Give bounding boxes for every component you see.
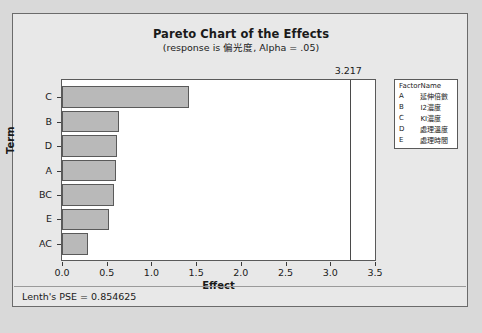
x-tick-label-4: 2.0 (226, 267, 256, 278)
legend-name: KI濃度 (420, 113, 454, 124)
y-tick-label-d: D (45, 140, 52, 151)
y-tick-label-ac: AC (39, 238, 52, 249)
y-tick-label-e: E (46, 213, 52, 224)
bar-c (62, 86, 189, 107)
bar-bc (62, 184, 114, 205)
legend-header-row: Factor Name (399, 82, 454, 91)
x-tick-1 (107, 262, 108, 266)
x-tick-7 (375, 262, 376, 266)
x-tick-6 (330, 262, 331, 266)
legend-factor: D (399, 123, 420, 134)
bar-d (62, 135, 117, 156)
bar-e (62, 209, 109, 230)
lenth-pse-note: Lenth's PSE = 0.854625 (22, 291, 136, 302)
y-tick-bc (57, 195, 61, 196)
footer-divider (14, 286, 466, 287)
legend-name: 延伸倍數 (420, 91, 454, 102)
legend-factor: C (399, 113, 420, 124)
y-tick-a (57, 171, 61, 172)
x-tick-0 (62, 262, 63, 266)
legend-name: I2濃度 (420, 102, 454, 113)
chart-subtitle: (response is 偏光度, Alpha = .05) (13, 42, 469, 54)
y-tick-e (57, 219, 61, 220)
x-tick-label-7: 3.5 (360, 267, 390, 278)
x-tick-label-0: 0.0 (47, 267, 77, 278)
plot-area (61, 79, 376, 261)
x-tick-label-5: 2.5 (271, 267, 301, 278)
legend-row: D處理溫度 (399, 123, 454, 134)
legend-table: Factor Name A延伸倍數BI2濃度CKI濃度D處理溫度E處理時間 (399, 82, 454, 145)
reference-line-label: 3.217 (335, 65, 362, 76)
x-tick-label-2: 1.0 (136, 267, 166, 278)
legend-factor: B (399, 102, 420, 113)
x-tick-3 (196, 262, 197, 266)
legend-factor: E (399, 134, 420, 145)
y-axis-title: Term (5, 126, 16, 154)
y-tick-label-b: B (45, 116, 52, 127)
x-tick-2 (151, 262, 152, 266)
y-tick-label-c: C (45, 91, 52, 102)
plot-inner (62, 80, 375, 260)
y-tick-b (57, 122, 61, 123)
legend-row: E處理時間 (399, 134, 454, 145)
page-title: Pareto Chart of the Effects (13, 28, 469, 41)
legend-row: BI2濃度 (399, 102, 454, 113)
x-tick-5 (286, 262, 287, 266)
legend-factor: A (399, 91, 420, 102)
y-tick-label-bc: BC (39, 189, 52, 200)
legend-name: 處理溫度 (420, 123, 454, 134)
bar-a (62, 160, 116, 181)
x-tick-label-6: 3.0 (315, 267, 345, 278)
legend-box: Factor Name A延伸倍數BI2濃度CKI濃度D處理溫度E處理時間 (394, 79, 458, 149)
x-tick-label-3: 1.5 (181, 267, 211, 278)
legend-row: A延伸倍數 (399, 91, 454, 102)
title-block: Pareto Chart of the Effects (response is… (13, 28, 469, 54)
legend-row: CKI濃度 (399, 113, 454, 124)
y-tick-c (57, 97, 61, 98)
legend-name: 處理時間 (420, 134, 454, 145)
reference-line (350, 80, 351, 260)
legend-header-factor: Factor (399, 82, 420, 91)
y-tick-label-a: A (46, 165, 53, 176)
bar-b (62, 111, 119, 132)
y-tick-ac (57, 244, 61, 245)
legend-body: A延伸倍數BI2濃度CKI濃度D處理溫度E處理時間 (399, 91, 454, 145)
x-tick-4 (241, 262, 242, 266)
x-tick-label-1: 0.5 (92, 267, 122, 278)
legend-header-name: Name (420, 82, 454, 91)
chart-window: Pareto Chart of the Effects (response is… (12, 13, 468, 307)
bar-ac (62, 233, 88, 254)
y-tick-d (57, 146, 61, 147)
